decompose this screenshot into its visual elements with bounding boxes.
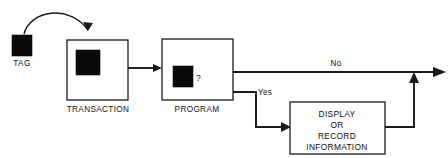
edge-transaction-to-program — [128, 64, 162, 72]
edge-display-return — [385, 72, 419, 127]
node-tag[interactable]: TAG — [12, 35, 32, 68]
flowchart-canvas: TAG TRANSACTION ? PROGRAM No — [0, 0, 448, 158]
program-question-mark: ? — [196, 73, 201, 83]
program-chip-icon — [173, 66, 193, 87]
edge-tag-to-transaction — [24, 13, 93, 34]
edge-yes-branch-label: Yes — [258, 88, 272, 97]
node-transaction[interactable]: TRANSACTION — [67, 40, 130, 114]
display-record-line-2: OR — [330, 120, 343, 130]
edge-display-return-arrowhead — [409, 72, 419, 83]
display-record-line-1: DISPLAY — [319, 109, 356, 119]
display-record-line-4: INFORMATION — [306, 142, 367, 152]
edge-display-return-path — [385, 78, 414, 127]
display-record-line-3: RECORD — [318, 131, 356, 141]
edge-no-branch-label: No — [331, 59, 342, 68]
program-caption: PROGRAM — [175, 105, 220, 114]
transaction-caption: TRANSACTION — [67, 105, 130, 114]
edge-no-branch-arrowhead — [433, 67, 446, 77]
edge-tag-to-transaction-path — [24, 13, 88, 34]
flowchart-svg: TAG TRANSACTION ? PROGRAM No — [0, 0, 448, 158]
tag-chip-icon — [12, 35, 32, 56]
program-box — [162, 39, 233, 100]
edge-yes-branch-path — [233, 92, 285, 127]
node-display-record[interactable]: DISPLAY OR RECORD INFORMATION — [290, 102, 385, 154]
edge-transaction-to-program-arrowhead — [153, 64, 162, 72]
transaction-chip-icon — [76, 50, 100, 75]
node-program[interactable]: ? PROGRAM — [162, 39, 233, 114]
tag-caption: TAG — [13, 59, 30, 68]
edge-yes-branch: Yes — [233, 88, 291, 132]
